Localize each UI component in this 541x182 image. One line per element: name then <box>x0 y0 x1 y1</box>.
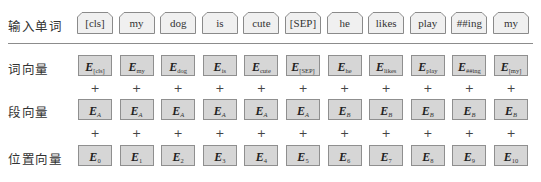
input-token-label: is <box>202 17 238 29</box>
plus-sign: + <box>243 127 279 140</box>
token-embedding: E[my] <box>494 55 528 76</box>
segment-embedding: EB <box>369 99 403 120</box>
embedding-symbol: E <box>501 60 509 74</box>
input-token: he <box>327 12 363 34</box>
segment-embedding: EA <box>203 99 237 120</box>
token-embedding: Eplay <box>411 55 445 76</box>
token-embedding: Elikes <box>369 55 403 76</box>
plus-sign: + <box>327 82 363 95</box>
input-token: play <box>410 12 446 34</box>
input-token: is <box>202 12 238 34</box>
token-embedding-subscript: [SEP] <box>299 67 315 74</box>
input-token: dog <box>160 12 196 34</box>
embedding-symbol: E <box>422 104 430 118</box>
embedding-symbol: E <box>505 104 513 118</box>
input-token-label: he <box>327 17 363 29</box>
embedding-symbol: E <box>297 104 305 118</box>
embedding-symbol: E <box>464 150 472 164</box>
input-token: ##ing <box>451 12 487 34</box>
token-embedding: Emy <box>120 55 154 76</box>
segment-embedding: EA <box>161 99 195 120</box>
token-embedding-subscript: dog <box>177 67 187 74</box>
position-embedding: E8 <box>411 145 445 166</box>
token-embedding: E[SEP] <box>286 55 320 76</box>
embedding-symbol: E <box>89 104 97 118</box>
plus-sign: + <box>119 82 155 95</box>
input-token-label: [SEP] <box>285 17 321 29</box>
token-embedding: E[cls] <box>78 55 112 76</box>
segment-embedding-subscript: B <box>513 111 517 118</box>
token-embedding: Eis <box>203 55 237 76</box>
input-token: likes <box>368 12 404 34</box>
row-label-token-embeddings: 词向量 <box>8 59 49 78</box>
embedding-symbol: E <box>376 60 384 74</box>
position-embedding-subscript: 2 <box>181 157 184 164</box>
plus-sign: + <box>327 127 363 140</box>
position-embedding: E5 <box>286 145 320 166</box>
input-token: cute <box>243 12 279 34</box>
input-token-label: my <box>493 17 529 29</box>
plus-sign: + <box>451 82 487 95</box>
plus-sign: + <box>77 82 113 95</box>
token-embedding-subscript: is <box>222 67 226 74</box>
plus-sign: + <box>243 82 279 95</box>
embedding-symbol: E <box>131 150 139 164</box>
input-token-label: likes <box>368 17 404 29</box>
position-embedding-subscript: 0 <box>97 157 100 164</box>
segment-embedding: EA <box>120 99 154 120</box>
embedding-symbol: E <box>381 150 389 164</box>
token-embedding-subscript: likes <box>384 67 396 74</box>
position-embedding-subscript: 3 <box>222 157 225 164</box>
plus-sign: + <box>202 127 238 140</box>
embedding-symbol: E <box>131 104 139 118</box>
position-embedding: E4 <box>244 145 278 166</box>
embedding-symbol: E <box>214 150 222 164</box>
segment-embedding-subscript: A <box>139 111 143 118</box>
plus-sign: + <box>451 127 487 140</box>
input-token-label: dog <box>160 17 196 29</box>
embedding-symbol: E <box>458 60 466 74</box>
embedding-symbol: E <box>380 104 388 118</box>
row-label-position-embeddings: 位置向量 <box>8 149 62 168</box>
position-embedding: E2 <box>161 145 195 166</box>
input-token-label: ##ing <box>451 17 487 29</box>
position-embedding-subscript: 1 <box>139 157 142 164</box>
plus-sign: + <box>160 82 196 95</box>
token-embedding-subscript: [my] <box>509 67 522 74</box>
segment-embedding-subscript: A <box>305 111 309 118</box>
segment-embedding: EA <box>244 99 278 120</box>
position-embedding: E1 <box>120 145 154 166</box>
segment-embedding-subscript: A <box>263 111 267 118</box>
plus-sign: + <box>493 127 529 140</box>
plus-sign: + <box>160 127 196 140</box>
embedding-symbol: E <box>339 104 347 118</box>
position-embedding-subscript: 10 <box>512 157 519 164</box>
plus-sign: + <box>493 82 529 95</box>
plus-sign: + <box>119 127 155 140</box>
embedding-symbol: E <box>339 150 347 164</box>
embedding-symbol: E <box>418 60 426 74</box>
segment-embedding-subscript: B <box>347 111 351 118</box>
position-embedding-subscript: 8 <box>430 157 433 164</box>
plus-sign: + <box>368 127 404 140</box>
position-embedding: E6 <box>328 145 362 166</box>
embedding-symbol: E <box>504 150 512 164</box>
position-embedding-subscript: 5 <box>305 157 308 164</box>
input-token-label: play <box>410 17 446 29</box>
segment-embedding: EA <box>78 99 112 120</box>
input-token: [SEP] <box>285 12 321 34</box>
embedding-symbol: E <box>338 60 346 74</box>
token-embedding-subscript: ##ing <box>466 67 481 74</box>
token-embedding: E##ing <box>452 55 486 76</box>
position-embedding: E10 <box>494 145 528 166</box>
segment-embedding-subscript: A <box>180 111 184 118</box>
plus-sign: + <box>285 127 321 140</box>
segment-embedding-subscript: A <box>222 111 226 118</box>
input-token: my <box>493 12 529 34</box>
position-embedding: E9 <box>452 145 486 166</box>
embedding-symbol: E <box>214 60 222 74</box>
position-embedding-subscript: 9 <box>472 157 475 164</box>
plus-sign: + <box>410 127 446 140</box>
embedding-symbol: E <box>256 150 264 164</box>
input-token-label: [cls] <box>77 17 113 29</box>
